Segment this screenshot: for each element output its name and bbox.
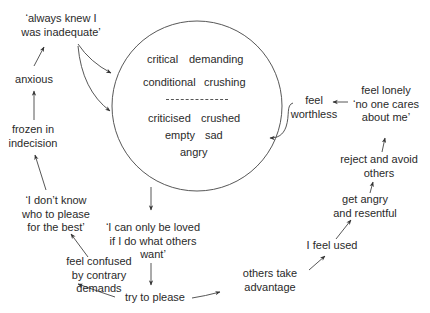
node-text: by contrary	[66, 269, 131, 283]
node-text: ‘no one cares	[353, 98, 419, 112]
node-text: was inadequate’	[21, 26, 101, 40]
node-try-to-please: try to please	[125, 291, 185, 305]
circle-word-criticised: criticised	[148, 112, 191, 124]
node-text: indecision	[9, 137, 58, 151]
circle-word-empty: empty	[165, 129, 195, 141]
node-anxious: anxious	[15, 73, 53, 87]
central-circle	[112, 21, 282, 191]
node-text: advantage	[243, 281, 297, 295]
node-text: feel	[291, 94, 337, 108]
node-feel-lonely: feel lonely ‘no one cares about me’	[353, 84, 419, 125]
circle-word-sad: sad	[205, 129, 223, 141]
node-reject-and-avoid: reject and avoid others	[340, 153, 418, 180]
node-text: about me’	[353, 111, 419, 125]
node-text: others take	[243, 267, 297, 281]
node-i-feel-used: I feel used	[307, 239, 358, 253]
node-text: demands	[66, 282, 131, 296]
node-text: ‘I can only be loved	[106, 221, 200, 235]
node-feel-worthless: feel worthless	[291, 94, 337, 121]
node-text: want’	[106, 248, 200, 262]
node-text: ‘always knew I	[21, 12, 101, 26]
node-dont-know-who-to-please: ‘I don’t know who to please for the best…	[22, 194, 90, 235]
node-can-only-be-loved: ‘I can only be loved if I do what others…	[106, 221, 200, 262]
node-text: and resentful	[333, 207, 397, 221]
node-text: ‘I don’t know	[22, 194, 90, 208]
node-text: for the best’	[22, 221, 90, 235]
node-text: if I do what others	[106, 235, 200, 249]
node-text: get angry	[333, 193, 397, 207]
node-text: worthless	[291, 108, 337, 122]
node-text: who to please	[22, 208, 90, 222]
node-text: frozen in	[9, 123, 58, 137]
circle-word-angry: angry	[180, 146, 208, 158]
circle-separator	[166, 99, 228, 100]
circle-word-conditional: conditional	[143, 76, 196, 88]
circle-word-demanding: demanding	[189, 53, 243, 65]
circle-word-crushing: crushing	[204, 76, 246, 88]
node-text: anxious	[15, 73, 53, 87]
node-frozen-in-indecision: frozen in indecision	[9, 123, 58, 150]
node-text: feel lonely	[353, 84, 419, 98]
node-get-angry-resentful: get angry and resentful	[333, 193, 397, 220]
node-others-take-advantage: others take advantage	[243, 267, 297, 294]
circle-word-critical: critical	[147, 53, 178, 65]
node-text: others	[340, 167, 418, 181]
node-text: try to please	[125, 291, 185, 305]
circle-word-crushed: crushed	[201, 112, 240, 124]
node-text: I feel used	[307, 239, 358, 253]
node-text: reject and avoid	[340, 153, 418, 167]
node-always-knew-inadequate: ‘always knew I was inadequate’	[21, 12, 101, 39]
